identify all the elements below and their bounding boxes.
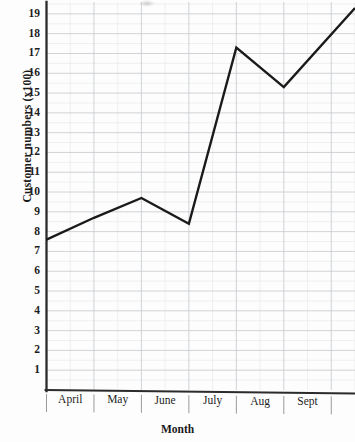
x-axis-title: Month	[0, 423, 355, 435]
x-axis-tick-label: April	[47, 394, 94, 406]
x-axis-tick-labels: AprilMayJuneJulyAugSept	[0, 0, 355, 442]
y-axis-title: Customer numbers (x100)	[21, 46, 33, 226]
x-axis-tick-label: June	[141, 395, 188, 407]
x-axis-tick-label: July	[189, 395, 236, 407]
x-axis-tick-label: Aug	[236, 396, 283, 408]
line-chart: 12345678910111213141516171819 AprilMayJu…	[0, 0, 355, 442]
x-axis-tick-label: May	[94, 394, 141, 406]
x-axis-tick-label: Sept	[284, 396, 331, 408]
